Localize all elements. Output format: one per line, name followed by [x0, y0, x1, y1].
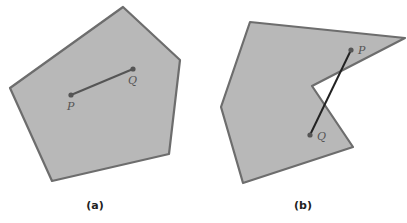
point-q-a: [130, 66, 135, 71]
panel-a: P Q (a): [10, 7, 180, 212]
label-p-b: P: [357, 44, 366, 57]
caption-b: (b): [294, 199, 312, 212]
convex-polygon: [10, 7, 180, 181]
nonconvex-polygon: [221, 22, 405, 183]
figure-canvas: P Q (a) P Q (b): [0, 0, 407, 223]
point-p-b: [348, 47, 353, 52]
label-q-a: Q: [128, 74, 137, 87]
label-q-b: Q: [317, 130, 326, 143]
point-p-a: [68, 92, 73, 97]
point-q-b: [307, 132, 312, 137]
panel-b: P Q (b): [221, 22, 405, 212]
caption-a: (a): [86, 199, 103, 212]
label-p-a: P: [66, 100, 75, 113]
